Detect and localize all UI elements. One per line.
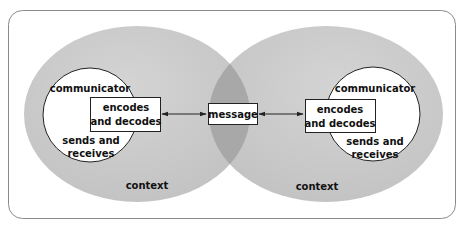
left-communicator-label: communicator [50,83,131,94]
communication-model-diagram: communicator encodes and decodes sends a… [0,0,464,228]
left-sends-line1: sends and [62,135,119,146]
left-box-line1: encodes [103,102,150,113]
left-sends-line2: receives [67,148,114,159]
message-label: message [208,109,258,120]
right-sends-line1: sends and [346,136,403,147]
right-communicator-label: communicator [335,83,416,94]
right-box-line1: encodes [317,104,364,115]
left-context-label: context [126,180,169,191]
right-context-label: context [296,181,339,192]
left-box-line2: and decodes [90,116,161,127]
right-box-line2: and decodes [304,118,375,129]
right-sends-line2: receives [351,149,398,160]
